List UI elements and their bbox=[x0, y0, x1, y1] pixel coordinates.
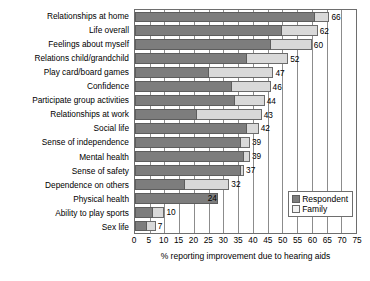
x-tick-label: 45 bbox=[263, 236, 272, 244]
bar-row: 44 bbox=[135, 94, 356, 108]
legend-item-respondent: Respondent bbox=[292, 195, 348, 204]
category-label: Mental health bbox=[0, 150, 132, 164]
bar-row: 60 bbox=[135, 38, 356, 52]
x-tick-label: 50 bbox=[278, 236, 287, 244]
bar-respondent bbox=[135, 53, 247, 64]
bar-respondent bbox=[135, 67, 209, 78]
x-tick-label: 0 bbox=[132, 236, 137, 244]
legend-label-family: Family bbox=[302, 205, 327, 214]
bar-value-label: 39 bbox=[250, 152, 261, 160]
legend-label-respondent: Respondent bbox=[302, 195, 348, 204]
category-label: Physical health bbox=[0, 192, 132, 206]
x-tick-label: 60 bbox=[308, 236, 317, 244]
bar-value-label: 47 bbox=[273, 69, 284, 77]
bar-respondent bbox=[135, 207, 153, 218]
bar-row: 47 bbox=[135, 66, 356, 80]
category-label: Participate group activities bbox=[0, 93, 132, 107]
bar-value-label: 32 bbox=[229, 180, 240, 188]
x-tick-label: 35 bbox=[233, 236, 242, 244]
x-tick-label: 70 bbox=[338, 236, 347, 244]
category-label: Play card/board games bbox=[0, 65, 132, 79]
category-label: Relationships at home bbox=[0, 9, 132, 23]
category-axis: Relationships at homeLife overallFeeling… bbox=[0, 9, 132, 234]
category-label: Sex life bbox=[0, 220, 132, 234]
x-tick-label: 55 bbox=[293, 236, 302, 244]
x-tick-label: 75 bbox=[352, 236, 361, 244]
bar-row: 37 bbox=[135, 163, 356, 177]
bar-respondent bbox=[135, 81, 232, 92]
x-tick-label: 15 bbox=[174, 236, 183, 244]
bar-respondent bbox=[135, 39, 271, 50]
x-tick-label: 25 bbox=[204, 236, 213, 244]
bar-row: 52 bbox=[135, 52, 356, 66]
bar-row: 43 bbox=[135, 108, 356, 122]
legend-swatch-respondent-icon bbox=[292, 195, 300, 203]
x-tick-label: 10 bbox=[159, 236, 168, 244]
bar-chart: Relationships at homeLife overallFeeling… bbox=[0, 0, 370, 281]
x-axis-title: % reporting improvement due to hearing a… bbox=[134, 252, 357, 261]
bar-value-label: 37 bbox=[244, 166, 255, 174]
category-label: Life overall bbox=[0, 23, 132, 37]
bar-row: 7 bbox=[135, 219, 356, 233]
bar-value-label: 62 bbox=[318, 27, 329, 35]
x-tick-label: 40 bbox=[248, 236, 257, 244]
bar-value-label: 46 bbox=[271, 83, 282, 91]
bar-value-label: 10 bbox=[164, 208, 175, 216]
category-label: Dependence on others bbox=[0, 178, 132, 192]
legend-item-family: Family bbox=[292, 205, 348, 214]
bar-row: 46 bbox=[135, 80, 356, 94]
bar-respondent bbox=[135, 179, 185, 190]
bar-value-label: 60 bbox=[312, 41, 323, 49]
bar-value-label: 39 bbox=[250, 138, 261, 146]
x-tick-label: 20 bbox=[189, 236, 198, 244]
x-tick-label: 5 bbox=[147, 236, 152, 244]
x-tick-label: 65 bbox=[323, 236, 332, 244]
bar-respondent bbox=[135, 151, 244, 162]
plot-area: 6662605247464443423939373224107 Responde… bbox=[134, 9, 357, 234]
bar-respondent bbox=[135, 221, 147, 232]
bar-value-label: 7 bbox=[156, 222, 163, 230]
bar-respondent bbox=[135, 137, 241, 148]
category-label: Sense of safety bbox=[0, 164, 132, 178]
category-label: Feelings about myself bbox=[0, 37, 132, 51]
x-axis-ticks: 051015202530354045505560657075 bbox=[134, 236, 357, 248]
category-label: Relationships at work bbox=[0, 107, 132, 121]
category-label: Social life bbox=[0, 122, 132, 136]
category-label: Confidence bbox=[0, 79, 132, 93]
bar-respondent bbox=[135, 12, 315, 23]
bar-row: 62 bbox=[135, 24, 356, 38]
bar-value-label: 44 bbox=[265, 96, 276, 104]
bar-respondent bbox=[135, 109, 197, 120]
bar-value-label: 24 bbox=[206, 194, 217, 202]
bar-row: 66 bbox=[135, 10, 356, 24]
bar-value-label: 66 bbox=[329, 13, 340, 21]
bar-respondent bbox=[135, 95, 235, 106]
bar-respondent bbox=[135, 25, 282, 36]
bar-row: 39 bbox=[135, 135, 356, 149]
chart-legend: Respondent Family bbox=[288, 191, 353, 217]
category-label: Sense of independence bbox=[0, 136, 132, 150]
bar-value-label: 52 bbox=[288, 55, 299, 63]
bar-row: 32 bbox=[135, 177, 356, 191]
x-tick-label: 30 bbox=[219, 236, 228, 244]
bar-value-label: 42 bbox=[259, 124, 270, 132]
bar-respondent bbox=[135, 165, 241, 176]
category-label: Relations child/grandchild bbox=[0, 51, 132, 65]
legend-swatch-family-icon bbox=[292, 205, 300, 213]
category-label: Ability to play sports bbox=[0, 206, 132, 220]
bar-row: 39 bbox=[135, 149, 356, 163]
bar-respondent bbox=[135, 123, 247, 134]
bar-row: 42 bbox=[135, 122, 356, 136]
bar-value-label: 43 bbox=[262, 110, 273, 118]
